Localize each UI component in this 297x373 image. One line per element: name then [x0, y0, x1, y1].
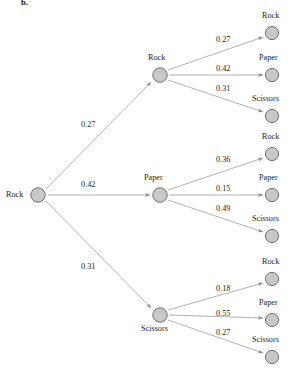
node-root-rock[interactable] [31, 188, 45, 202]
node-leaf-paper-paper[interactable] [265, 188, 278, 201]
node-leaf-rock-paper[interactable] [265, 68, 278, 81]
node-label-leaf-paper-paper: Paper [259, 174, 278, 182]
edge-label-rock-scissors: 0.31 [216, 85, 230, 93]
edge-root-to-scissors [46, 201, 151, 308]
node-leaf-rock-scissors[interactable] [265, 109, 278, 122]
node-label-leaf-rock-scissors: Scissors [252, 95, 279, 103]
edge-label-paper-rock: 0.36 [216, 156, 230, 164]
node-leaf-scissors-rock[interactable] [265, 272, 278, 285]
edge-label-scissors-paper: 0.55 [216, 310, 230, 318]
node-level1-paper[interactable] [153, 188, 167, 202]
node-leaf-scissors-scissors[interactable] [265, 350, 278, 363]
node-leaf-paper-scissors[interactable] [265, 229, 278, 242]
node-label-leaf-scissors-scissors: Scissors [252, 336, 279, 344]
edge-label-scissors-scissors: 0.27 [216, 329, 230, 337]
edge-group-paper [168, 158, 263, 232]
edge-label-rock-paper: 0.42 [216, 65, 230, 73]
edge-root-to-rock [46, 82, 151, 189]
node-label-level1-paper: Paper [144, 174, 163, 182]
edge-label-root-rock: 0.27 [81, 121, 95, 129]
node-label-leaf-scissors-paper: Paper [259, 299, 278, 307]
edge-label-root-paper: 0.42 [81, 181, 95, 189]
edge-label-paper-scissors: 0.49 [216, 205, 230, 213]
node-label-level1-rock: Rock [148, 54, 165, 62]
node-leaf-rock-rock[interactable] [265, 26, 278, 39]
node-level1-rock[interactable] [153, 68, 167, 82]
edge-label-scissors-rock: 0.18 [216, 285, 230, 293]
edge-label-paper-paper: 0.15 [216, 185, 230, 193]
node-leaf-paper-rock[interactable] [265, 147, 278, 160]
edge-group-rock [168, 37, 263, 112]
edge-group-level1 [46, 82, 151, 308]
edge-label-rock-rock: 0.27 [216, 36, 230, 44]
node-label-leaf-paper-scissors: Scissors [252, 215, 279, 223]
edge-label-root-scissors: 0.31 [81, 263, 95, 271]
node-label-leaf-scissors-rock: Rock [262, 258, 279, 266]
node-leaf-scissors-paper[interactable] [265, 313, 278, 326]
node-label-leaf-rock-paper: Paper [259, 54, 278, 62]
node-label-leaf-rock-rock: Rock [262, 12, 279, 20]
node-level1-scissors[interactable] [153, 308, 167, 322]
node-label-level1-scissors: Scissors [141, 325, 168, 333]
node-label-leaf-paper-rock: Rock [262, 133, 279, 141]
node-label-root-rock: Rock [6, 191, 23, 199]
probability-tree-figure: b. [0, 0, 297, 373]
